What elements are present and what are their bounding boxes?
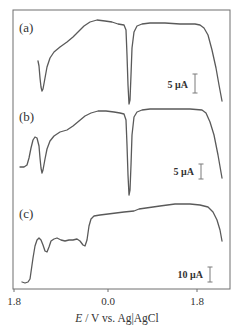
series-layer: (a)5 μA(b)5 μA(c)10 μA (19, 20, 222, 283)
series-b: (b)5 μA (19, 109, 222, 195)
plot-frame (13, 10, 230, 289)
scale-bar-label: 5 μA (174, 166, 195, 177)
scale-bar (193, 74, 198, 93)
panel-label: (a) (19, 20, 33, 35)
x-axis-label: E / V vs. Ag|AgCl (74, 312, 158, 325)
trace-line (20, 109, 222, 195)
scale-bar (199, 164, 204, 179)
trace-line (38, 20, 222, 104)
x-tick-label: 1.8 (190, 295, 204, 307)
x-tick-label: 1.8 (7, 295, 21, 307)
series-a: (a)5 μA (19, 20, 222, 104)
panel-label: (b) (19, 109, 34, 124)
x-axis-label-units: / V vs. Ag|AgCl (82, 312, 158, 325)
x-axis: 1.80.01.8 (7, 289, 204, 307)
scale-bar-label: 5 μA (168, 79, 189, 90)
scale-bar (208, 267, 213, 282)
panel-label: (c) (19, 206, 33, 221)
voltammogram-chart: (a)5 μA(b)5 μA(c)10 μA 1.80.01.8 E / V v… (0, 0, 234, 330)
series-c: (c)10 μA (19, 204, 222, 283)
x-tick-label: 0.0 (101, 295, 115, 307)
x-axis-label-variable: E (74, 312, 82, 324)
scale-bar-label: 10 μA (178, 269, 204, 280)
